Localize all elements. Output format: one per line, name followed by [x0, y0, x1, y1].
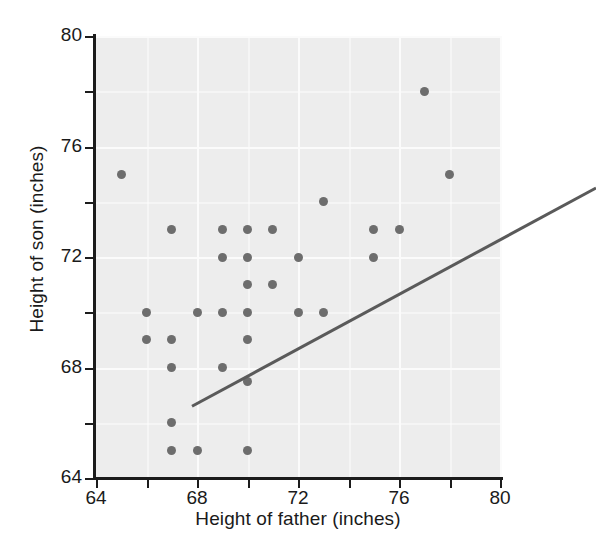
data-point — [319, 308, 328, 317]
y-tick-label: 64 — [38, 466, 82, 488]
y-tick-label: 76 — [38, 135, 82, 157]
x-tick-label: 76 — [376, 487, 422, 509]
gridline-horizontal — [96, 36, 500, 38]
data-point — [294, 253, 303, 262]
y-tick-mark — [85, 368, 94, 370]
x-tick-mark-minor — [248, 479, 250, 488]
data-point — [294, 308, 303, 317]
data-point — [167, 335, 176, 344]
data-point — [369, 225, 378, 234]
data-point — [369, 253, 378, 262]
data-point — [243, 446, 252, 455]
data-point — [243, 253, 252, 262]
gridline-vertical-minor — [147, 36, 149, 478]
gridline-horizontal — [96, 147, 500, 149]
gridline-horizontal-minor — [96, 91, 500, 93]
data-point — [218, 225, 227, 234]
gridline-horizontal-minor — [96, 202, 500, 204]
data-point — [243, 335, 252, 344]
data-point — [117, 170, 126, 179]
data-point — [142, 308, 151, 317]
gridline-vertical-minor — [349, 36, 351, 478]
data-point — [193, 308, 202, 317]
y-tick-label: 68 — [38, 356, 82, 378]
y-tick-mark-minor — [85, 202, 94, 204]
gridline-vertical-minor — [450, 36, 452, 478]
data-point — [167, 225, 176, 234]
data-point — [268, 280, 277, 289]
gridline-vertical — [500, 36, 502, 478]
x-tick-label: 80 — [477, 487, 523, 509]
data-point — [167, 418, 176, 427]
data-point — [395, 225, 404, 234]
data-point — [445, 170, 454, 179]
gridline-horizontal-minor — [96, 423, 500, 425]
data-point — [243, 377, 252, 386]
y-tick-mark — [85, 478, 94, 480]
data-point — [142, 335, 151, 344]
y-tick-mark — [85, 257, 94, 259]
data-point — [218, 363, 227, 372]
data-point — [218, 253, 227, 262]
data-point — [243, 308, 252, 317]
y-tick-mark-minor — [85, 91, 94, 93]
gridline-horizontal — [96, 368, 500, 370]
data-point — [193, 446, 202, 455]
y-tick-label: 72 — [38, 245, 82, 267]
regression-line — [192, 72, 596, 514]
x-axis-label: Height of father (inches) — [96, 508, 500, 530]
y-tick-mark — [85, 36, 94, 38]
x-tick-mark-minor — [147, 479, 149, 488]
x-tick-mark-minor — [349, 479, 351, 488]
data-point — [243, 280, 252, 289]
data-point — [243, 225, 252, 234]
y-tick-mark-minor — [85, 423, 94, 425]
data-point — [420, 87, 429, 96]
y-tick-mark-minor — [85, 312, 94, 314]
data-point — [167, 446, 176, 455]
x-tick-mark-minor — [450, 479, 452, 488]
data-point — [167, 363, 176, 372]
y-tick-mark — [85, 147, 94, 149]
plot-area — [96, 36, 500, 478]
data-point — [319, 197, 328, 206]
x-tick-label: 72 — [275, 487, 321, 509]
y-tick-label: 80 — [38, 24, 82, 46]
x-tick-label: 64 — [73, 487, 119, 509]
data-point — [218, 308, 227, 317]
x-tick-label: 68 — [174, 487, 220, 509]
data-point — [268, 225, 277, 234]
